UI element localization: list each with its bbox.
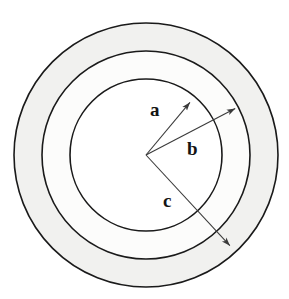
radius-label-b: b bbox=[187, 139, 198, 158]
radius-label-c: c bbox=[163, 191, 171, 210]
annulus-figure: a b c bbox=[0, 0, 289, 299]
radius-label-a: a bbox=[150, 100, 160, 119]
concentric-circles-svg bbox=[0, 0, 289, 299]
